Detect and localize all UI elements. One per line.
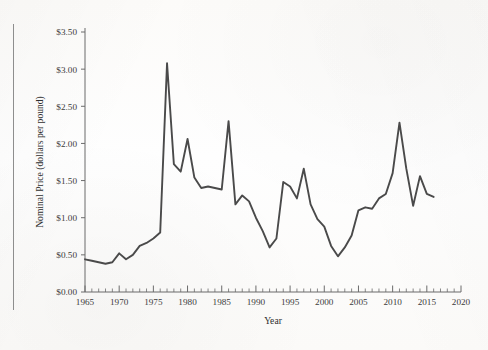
- y-tick-label: $1.00: [56, 213, 77, 223]
- x-tick-label: 2020: [452, 297, 471, 307]
- data-series-group: [85, 63, 434, 264]
- y-tick-label: $3.50: [56, 27, 77, 37]
- x-tick-label: 1995: [281, 297, 300, 307]
- x-tick-label: 1970: [110, 297, 129, 307]
- x-axis-title: Year: [264, 315, 282, 326]
- series-line: [85, 63, 434, 264]
- x-tick-label: 2005: [349, 297, 368, 307]
- x-tick-label: 1965: [76, 297, 95, 307]
- y-tick-label: $2.00: [56, 139, 77, 149]
- y-tick-label: $0.00: [56, 287, 77, 297]
- x-tick-label: 2000: [315, 297, 334, 307]
- x-tick-label: 2015: [418, 297, 437, 307]
- x-tick-label: 1975: [144, 297, 163, 307]
- x-tick-label: 2010: [383, 297, 402, 307]
- line-chart: $0.00$0.50$1.00$1.50$2.00$2.50$3.00$3.50…: [0, 0, 488, 350]
- y-axis-title: Nominal Price (dollars per pound): [34, 96, 46, 228]
- chart-canvas: $0.00$0.50$1.00$1.50$2.00$2.50$3.00$3.50…: [0, 0, 488, 350]
- y-axis: $0.00$0.50$1.00$1.50$2.00$2.50$3.00$3.50: [56, 27, 85, 297]
- y-tick-label: $2.50: [56, 102, 77, 112]
- y-tick-label: $3.00: [56, 65, 77, 75]
- x-axis: 1965197019751980198519901995200020052010…: [76, 286, 471, 308]
- x-tick-label: 1985: [213, 297, 232, 307]
- x-tick-label: 1990: [247, 297, 266, 307]
- y-tick-label: $0.50: [56, 250, 77, 260]
- x-tick-label: 1980: [178, 297, 197, 307]
- y-tick-label: $1.50: [56, 176, 77, 186]
